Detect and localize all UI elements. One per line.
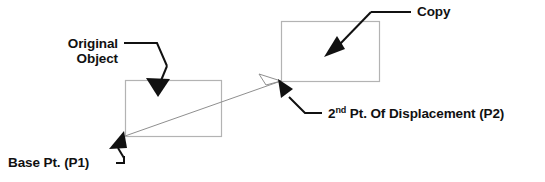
displacement-vector-arrowhead-icon [259, 74, 281, 85]
second-point-label-text: Pt. Of Displacement (P2) [346, 106, 504, 121]
copy-leader-arrow-icon [324, 36, 345, 57]
original-object-label-line-1: Original [68, 36, 118, 51]
original-object-label: Original Object [26, 36, 118, 66]
original-object-leader-arrow-icon [146, 78, 170, 97]
second-point-label-ordinal-suffix: nd [335, 105, 346, 115]
copy-label: Copy [417, 4, 450, 19]
base-point-leader-arrow-icon [109, 131, 127, 149]
diagram-canvas: Original Object Copy Base Pt. (P1) 2nd P… [0, 0, 545, 182]
copy-leader-stem [340, 12, 371, 44]
original-object-label-line-2: Object [26, 51, 118, 66]
original-object-rectangle [126, 81, 222, 137]
base-point-label: Base Pt. (P1) [8, 155, 89, 170]
second-point-label: 2nd Pt. Of Displacement (P2) [328, 106, 504, 121]
original-object-leader-line [124, 43, 167, 66]
base-point-leader-stem [118, 148, 124, 158]
second-point-leader-line [289, 97, 322, 113]
displacement-vector-line [125, 81, 281, 136]
